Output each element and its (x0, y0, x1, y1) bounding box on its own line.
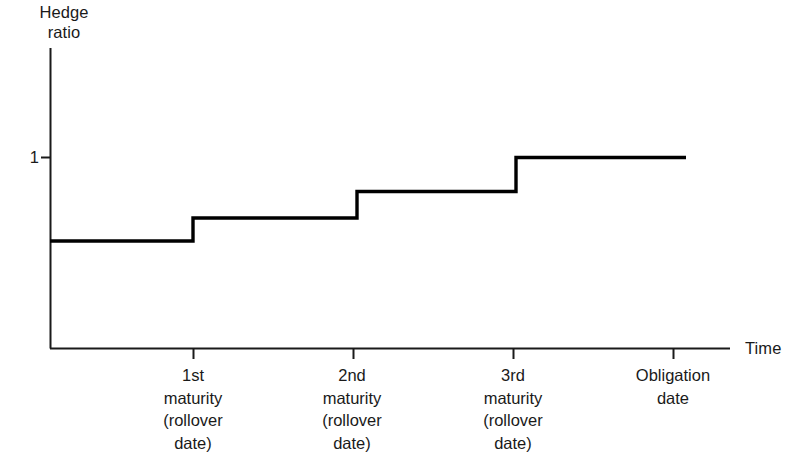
x-label-line-2: maturity (103, 387, 283, 410)
x-label-line-3: (rollover (423, 409, 603, 432)
x-label-line-3: (rollover (103, 409, 283, 432)
hedge-ratio-step-chart: Hedgeratio 1 Time 1st maturity (rollover… (0, 0, 806, 473)
x-label-line-2: maturity (423, 387, 603, 410)
x-label-line-4: date) (262, 432, 442, 455)
x-axis-label-obligation-date: Obligation date (583, 364, 763, 409)
x-axis-label-3rd-maturity: 3rd maturity (rollover date) (423, 364, 603, 454)
x-label-line-1: Obligation (583, 364, 763, 387)
x-axis-label-2nd-maturity: 2nd maturity (rollover date) (262, 364, 442, 454)
x-label-line-4: date) (423, 432, 603, 455)
x-label-line-1: 3rd (423, 364, 603, 387)
y-axis-tick-label-1: 1 (17, 147, 39, 167)
x-axis-title: Time (745, 338, 781, 358)
x-label-line-2: maturity (262, 387, 442, 410)
y-axis-title-line-2: ratio (18, 22, 110, 42)
x-label-line-1: 2nd (262, 364, 442, 387)
x-label-line-2: date (583, 387, 763, 410)
x-label-line-3: (rollover (262, 409, 442, 432)
hedge-ratio-step-line (50, 158, 686, 242)
x-label-line-1: 1st (103, 364, 283, 387)
y-axis-title-line-1: Hedge (39, 3, 88, 21)
x-label-line-4: date) (103, 432, 283, 455)
x-axis-label-1st-maturity: 1st maturity (rollover date) (103, 364, 283, 454)
y-axis-title: Hedgeratio (18, 2, 110, 42)
